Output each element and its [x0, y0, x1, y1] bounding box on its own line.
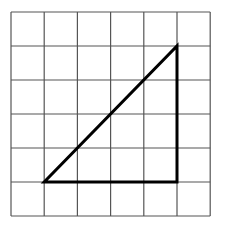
grid-triangle-diagram — [0, 0, 225, 226]
